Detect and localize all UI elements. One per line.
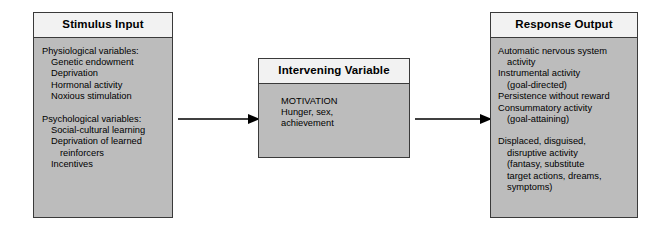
arrow-right-icon-stimulus-to-intervening	[178, 111, 260, 123]
text-line: Incentives	[42, 159, 166, 170]
response-output-body: Automatic nervous systemactivityInstrume…	[491, 38, 637, 218]
diagram-canvas: Stimulus Input Physiological variables:G…	[0, 0, 658, 242]
text-line: Instrumental activity	[498, 68, 631, 79]
text-line-spacer	[42, 103, 166, 114]
intervening-variable-header: Intervening Variable	[259, 59, 409, 84]
text-line: activity	[498, 57, 631, 68]
text-line: (goal-attaining)	[498, 114, 631, 125]
text-line: achievement	[281, 118, 403, 129]
stimulus-input-header: Stimulus Input	[34, 13, 172, 38]
response-output-box: Response Output Automatic nervous system…	[490, 12, 638, 218]
text-line: Consummatory activity	[498, 103, 631, 114]
text-line: reinforcers	[42, 148, 166, 159]
text-line: Deprivation	[42, 68, 166, 79]
text-line: symptoms)	[498, 182, 631, 193]
text-line: target actions, dreams,	[498, 171, 631, 182]
text-line: Hunger, sex,	[281, 107, 403, 118]
text-line: (fantasy, substitute	[498, 159, 631, 170]
text-line: Genetic endowment	[42, 57, 166, 68]
text-line: (goal-directed)	[498, 80, 631, 91]
stimulus-input-box: Stimulus Input Physiological variables:G…	[33, 12, 173, 218]
text-line: disruptive activity	[498, 148, 631, 159]
intervening-variable-body: MOTIVATIONHunger, sex,achievement	[259, 84, 409, 158]
text-line: Physiological variables:	[42, 46, 166, 57]
text-line: Social-cultural learning	[42, 125, 166, 136]
text-line: Psychological variables:	[42, 114, 166, 125]
text-line: Persistence without reward	[498, 91, 631, 102]
text-line: Deprivation of learned	[42, 136, 166, 147]
text-line: MOTIVATION	[281, 96, 403, 107]
text-line: Automatic nervous system	[498, 46, 631, 57]
stimulus-input-body: Physiological variables:Genetic endowmen…	[34, 38, 172, 218]
intervening-variable-box: Intervening Variable MOTIVATIONHunger, s…	[258, 58, 410, 158]
text-line-spacer	[498, 125, 631, 136]
text-line: Hormonal activity	[42, 80, 166, 91]
text-line: Noxious stimulation	[42, 91, 166, 102]
response-output-header: Response Output	[491, 13, 637, 38]
arrow-right-icon-intervening-to-response	[415, 111, 492, 123]
text-line: Displaced, disguised,	[498, 136, 631, 147]
